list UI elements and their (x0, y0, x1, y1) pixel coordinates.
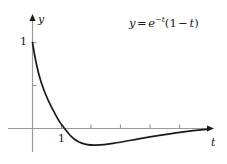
equation-lhs: y (129, 16, 136, 30)
equation-minus: − (177, 16, 190, 30)
y-axis-arrowhead (29, 14, 35, 21)
equation-exponent: −t (155, 15, 165, 24)
y-tick-label-1: 1 (20, 36, 27, 47)
equation-close-paren: ) (194, 16, 199, 30)
equation-equals: = (136, 16, 149, 30)
x-tick-label-1: 1 (58, 133, 65, 144)
equation-annotation: y=e−t(1−t) (129, 18, 199, 30)
function-plot-figure: y=e−t(1−t) y t 1 1 (0, 0, 227, 164)
x-axis-label: t (211, 137, 215, 148)
curve-exp-decay (33, 43, 210, 146)
equation-one: 1 (169, 16, 176, 30)
y-axis-label: y (38, 14, 44, 25)
